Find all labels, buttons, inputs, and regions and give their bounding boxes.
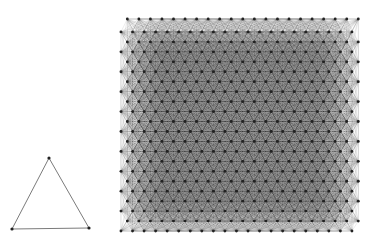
network-figure <box>0 0 370 241</box>
dense-lattice-graph <box>0 0 370 241</box>
